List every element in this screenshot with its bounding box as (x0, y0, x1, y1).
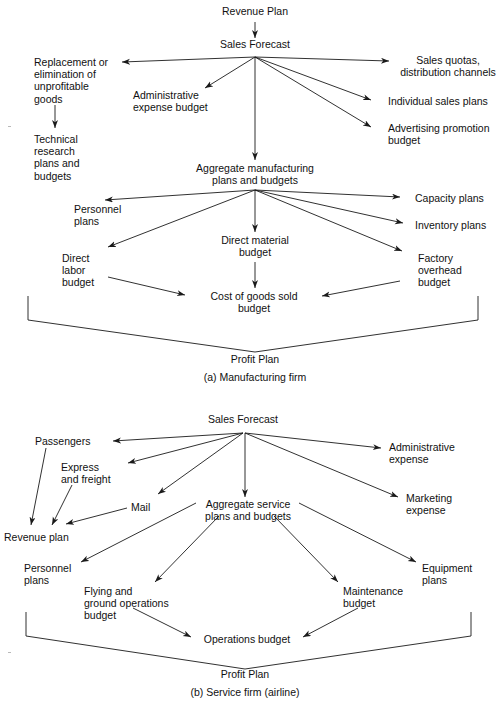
node-advertising-promotion-budget: Advertising promotion budget (388, 122, 490, 146)
node-technical-research: Technical research plans and budgets (34, 133, 80, 182)
node-individual-sales-plans: Individual sales plans (388, 95, 488, 107)
edge-sales-to-quotas (255, 57, 389, 61)
edge-overhead-to-cogs (322, 281, 400, 296)
node-direct-labor-budget: Direct labor budget (62, 252, 94, 289)
edge-aggregate-to-personnel (105, 190, 255, 200)
caption-panel-b: (b) Service firm (airline) (190, 686, 299, 698)
node-sales-forecast-b: Sales Forecast (208, 413, 278, 425)
node-personnel-plans-a: Personnel plans (74, 203, 121, 227)
edge-b-sales-to-mail (158, 433, 243, 494)
node-equipment-plans: Equipment plans (422, 562, 472, 586)
edge-sales-to-admin (205, 57, 255, 88)
edge-b-mail-to-revenue (66, 508, 127, 524)
edge-sales-to-individual (255, 57, 371, 100)
scan-artifact-left (8, 126, 11, 127)
edge-sales-to-advertising (255, 57, 371, 127)
diagram-page: Revenue Plan Sales Forecast Replacement … (0, 0, 502, 707)
label-profit-plan-b: Profit Plan (221, 668, 269, 680)
edge-b-maintenance-to-operations (303, 608, 358, 637)
node-personnel-plans-b: Personnel plans (24, 562, 71, 586)
edge-labor-to-cogs (108, 277, 185, 295)
node-express-and-freight: Express and freight (61, 461, 111, 485)
node-revenue-plan-a: Revenue Plan (222, 5, 288, 17)
node-aggregate-service: Aggregate service plans and budgets (205, 498, 291, 522)
node-direct-material-budget: Direct material budget (221, 234, 289, 258)
node-inventory-plans: Inventory plans (415, 219, 486, 231)
edge-b-aggregate-to-equipment (299, 503, 416, 562)
scan-artifact-bottom (8, 652, 11, 653)
caption-panel-a: (a) Manufacturing firm (204, 371, 307, 383)
edge-b-sales-to-passengers (113, 433, 243, 441)
edge-aggregate-to-inventory (255, 190, 403, 223)
edge-b-sales-to-admin (245, 433, 381, 448)
node-replacement-elimination: Replacement or elimination of unprofitab… (34, 56, 108, 105)
node-capacity-plans: Capacity plans (415, 192, 484, 204)
edge-b-passengers-to-revenue (31, 448, 46, 525)
node-factory-overhead-budget: Factory overhead budget (418, 252, 462, 289)
node-revenue-plan-b: Revenue plan (4, 531, 69, 543)
edge-sales-to-replacement (122, 57, 255, 62)
edge-b-sales-to-express (128, 433, 243, 463)
edge-b-aggregate-to-maintenance (274, 516, 338, 582)
node-mail: Mail (131, 501, 150, 513)
node-cost-of-goods-sold: Cost of goods sold budget (211, 290, 298, 314)
edge-b-express-to-revenue (52, 485, 72, 525)
edge-aggregate-to-capacity (255, 190, 400, 197)
node-aggregate-manufacturing: Aggregate manufacturing plans and budget… (196, 162, 314, 186)
node-administrative-expense-b: Administrative expense (389, 441, 455, 465)
edge-b-aggregate-to-flying (155, 516, 219, 582)
node-operations-budget: Operations budget (204, 633, 290, 645)
node-passengers: Passengers (35, 435, 90, 447)
node-maintenance-budget: Maintenance budget (343, 585, 403, 609)
node-marketing-expense: Marketing expense (406, 492, 452, 516)
label-profit-plan-a: Profit Plan (231, 353, 279, 365)
node-flying-ground-operations: Flying and ground operations budget (84, 585, 169, 622)
node-sales-forecast-a: Sales Forecast (220, 38, 290, 50)
edge-b-sales-to-marketing (245, 433, 398, 497)
node-sales-quotas: Sales quotas, distribution channels (400, 54, 496, 78)
node-administrative-expense-budget: Administrative expense budget (133, 89, 208, 113)
